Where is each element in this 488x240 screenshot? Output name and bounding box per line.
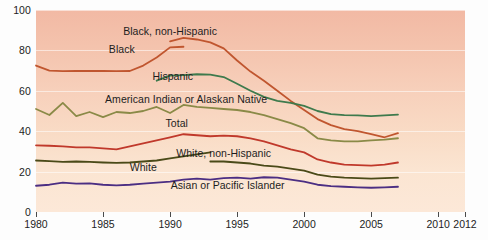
y-tick-label: 100 [13, 5, 31, 16]
x-axis: 19801985199019952000200520102012 [36, 212, 465, 240]
x-tick-label: 1980 [24, 219, 47, 230]
x-tick-label: 2010 [427, 219, 450, 230]
y-tick-label: 0 [25, 207, 31, 218]
y-tick-label: 40 [19, 126, 31, 137]
series-label: Hispanic [152, 70, 193, 81]
x-tick [103, 212, 104, 217]
y-tick-label: 60 [19, 86, 31, 97]
x-tick [237, 212, 238, 217]
series-line [210, 162, 398, 179]
chart-figure: 020406080100 BlackBlack, non-HispanicHis… [0, 0, 488, 240]
x-tick [438, 212, 439, 217]
x-tick [170, 212, 171, 217]
series-label: Total [166, 118, 188, 129]
y-axis-labels: 020406080100 [0, 0, 31, 222]
x-tick-label: 1995 [225, 219, 248, 230]
x-tick [304, 212, 305, 217]
series-label: Black, non-Hispanic [123, 26, 217, 37]
x-tick-label: 1985 [91, 219, 114, 230]
x-tick-label: 2005 [359, 219, 382, 230]
series-label: Black [109, 44, 135, 55]
x-tick-label: 2012 [453, 219, 476, 230]
series-label: American Indian or Alaskan Native [105, 94, 267, 105]
series-label: White, non-Hispanic [176, 148, 271, 159]
x-tick [465, 212, 466, 217]
series-label: White [130, 161, 157, 172]
plot-area: BlackBlack, non-HispanicHispanicAmerican… [36, 10, 465, 212]
x-tick [36, 212, 37, 217]
series-label: Asian or Pacific Islander [171, 179, 285, 190]
y-tick-label: 20 [19, 167, 31, 178]
x-tick [371, 212, 372, 217]
y-tick-label: 80 [19, 45, 31, 56]
x-tick-label: 2000 [292, 219, 315, 230]
x-tick-label: 1990 [158, 219, 181, 230]
series-line [170, 38, 398, 137]
